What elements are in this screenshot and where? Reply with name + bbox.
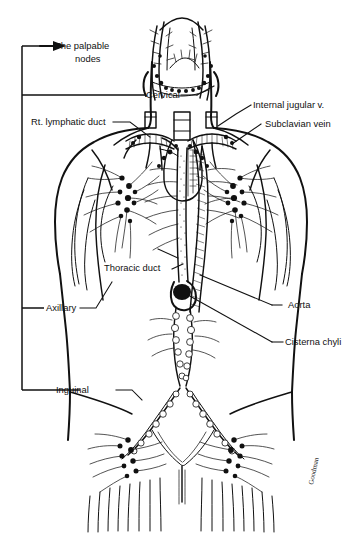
label-cisterna-chyli: Cisterna chyli (285, 336, 341, 347)
label-rt-lymphatic-duct: Rt. lymphatic duct (31, 116, 106, 127)
label-palpable-nodes-line1: The palpable (55, 40, 109, 51)
lymphatic-system-figure: The palpable nodes Cervical Rt. lymphati… (0, 0, 362, 541)
label-internal-jugular-v: Internal jugular v. (253, 99, 324, 110)
label-thoracic-duct: Thoracic duct (104, 262, 161, 273)
canvas-background (0, 0, 362, 541)
diagram-canvas: The palpable nodes Cervical Rt. lymphati… (0, 0, 362, 541)
label-inguinal: Inguinal (56, 384, 89, 395)
label-aorta: Aorta (288, 299, 311, 310)
label-axillary: Axillary (46, 302, 77, 313)
label-cervical: Cervical (146, 89, 180, 100)
label-palpable-nodes-line2: nodes (75, 53, 101, 64)
label-subclavian-vein: Subclavian vein (265, 118, 331, 129)
